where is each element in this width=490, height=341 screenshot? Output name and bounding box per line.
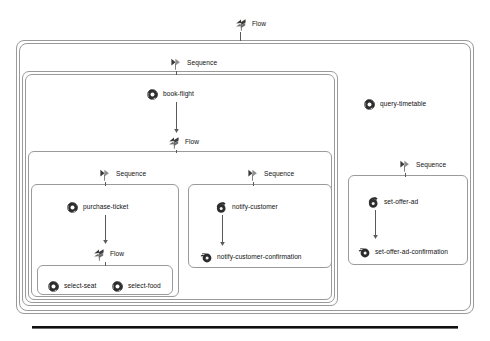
sequence-icon	[247, 168, 260, 181]
flow-icon	[168, 136, 181, 149]
node-flow-root[interactable]: Flow	[232, 16, 269, 32]
flow-icon	[93, 248, 106, 261]
node-label: Sequence	[187, 55, 217, 71]
node-flow-left[interactable]: Flow	[90, 246, 127, 262]
node-label: purchase-ticket	[83, 199, 128, 215]
node-query-timetable[interactable]: query-timetable	[360, 96, 429, 112]
connector-c-bookflight-down	[173, 99, 180, 133]
node-sequence-offer[interactable]: Sequence	[396, 157, 449, 173]
sequence-icon	[170, 57, 183, 70]
invoke-icon	[66, 201, 79, 214]
node-label: Flow	[252, 16, 266, 32]
node-label: select-seat	[64, 278, 96, 294]
diagram-canvas: FlowSequencebook-flightFlowSequenceSeque…	[0, 0, 490, 341]
node-label: notify-customer	[232, 199, 278, 215]
connector-c-offer-down	[372, 207, 379, 239]
node-label: select-food	[128, 278, 161, 294]
sequence-icon	[399, 159, 412, 172]
node-label: Sequence	[264, 166, 294, 182]
node-book-flight[interactable]: book-flight	[143, 86, 197, 102]
node-offer-confirmation[interactable]: set-offer-ad-confirmation	[355, 244, 451, 260]
node-label: set-offer-ad-confirmation	[375, 244, 448, 260]
flow-icon	[235, 18, 248, 31]
bottom-divider	[32, 326, 458, 329]
invoke-icon	[146, 88, 159, 101]
node-label: set-offer-ad	[384, 194, 418, 210]
node-notify-customer[interactable]: notify-customer	[212, 199, 281, 215]
node-label: Sequence	[416, 157, 446, 173]
node-label: book-flight	[163, 86, 194, 102]
invoke-icon	[111, 280, 124, 293]
connector-c-purchase-down	[102, 212, 109, 244]
node-label: notify-customer-confirmation	[217, 249, 302, 265]
reply-icon	[215, 201, 228, 214]
node-label: Sequence	[116, 166, 146, 182]
node-label: query-timetable	[380, 96, 426, 112]
node-label: Flow	[110, 246, 124, 262]
node-select-seat[interactable]: select-seat	[44, 278, 99, 294]
sequence-icon	[99, 168, 112, 181]
node-sequence-left[interactable]: Sequence	[96, 166, 149, 182]
receive-icon	[358, 246, 371, 259]
receive-icon	[200, 251, 213, 264]
node-select-food[interactable]: select-food	[108, 278, 164, 294]
node-sequence-right[interactable]: Sequence	[244, 166, 297, 182]
node-purchase-ticket[interactable]: purchase-ticket	[63, 199, 131, 215]
node-label: Flow	[185, 134, 199, 150]
node-set-offer-ad[interactable]: set-offer-ad	[364, 194, 421, 210]
node-flow-inner[interactable]: Flow	[165, 134, 202, 150]
invoke-icon	[47, 280, 60, 293]
node-notify-confirmation[interactable]: notify-customer-confirmation	[197, 249, 305, 265]
connector-c-notify-down	[219, 212, 226, 246]
invoke-icon	[363, 98, 376, 111]
reply-icon	[367, 196, 380, 209]
node-sequence-main[interactable]: Sequence	[167, 55, 220, 71]
